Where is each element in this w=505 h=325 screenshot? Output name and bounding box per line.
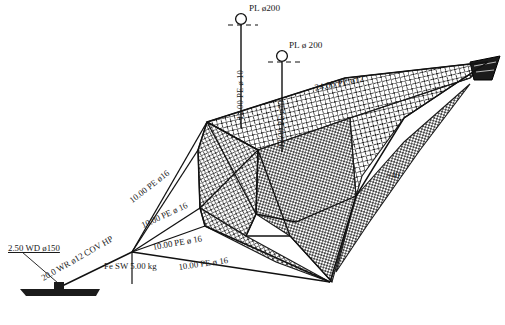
trawl-net-diagram: PL ø200 PL ø 200 12.00 PE ø 10 12.00 PE …: [0, 0, 505, 325]
sinker-label: Fe SW 5.00 kg: [104, 262, 157, 271]
mesh-count-label: ×40: [386, 171, 400, 180]
codend-tip: [470, 56, 500, 80]
float-line-left-label: 12.00 PE ø 10: [236, 70, 245, 120]
float-line-right-label: 12.00 PE ø10: [277, 100, 286, 148]
float-left-label: PL ø200: [249, 4, 280, 13]
diagram-canvas: [0, 0, 505, 325]
water-depth-label: 2.50 WD ø150: [8, 244, 60, 253]
float-right-label: PL ø 200: [289, 41, 322, 50]
